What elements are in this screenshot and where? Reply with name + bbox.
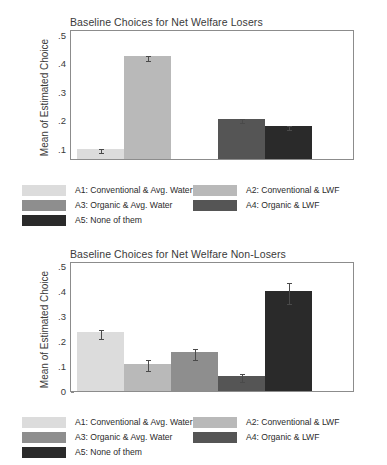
error-cap: [146, 371, 151, 372]
error-cap: [193, 349, 198, 350]
bar-series: [71, 31, 353, 159]
error-cap: [240, 382, 245, 383]
chart-legend: A1: Conventional & Avg. WaterA2: Convent…: [0, 183, 387, 228]
legend-item-a5[interactable]: A5: None of them: [22, 213, 142, 228]
legend-row: A1: Conventional & Avg. WaterA2: Convent…: [0, 183, 387, 198]
chart-title: Baseline Choices for Net Welfare Losers: [70, 16, 370, 28]
legend-label-a4: A4: Organic & LWF: [246, 200, 319, 211]
bar-a5: [265, 291, 312, 391]
y-tick-label: .5: [44, 30, 70, 42]
legend-label-a3: A3: Organic & Avg. Water: [75, 432, 172, 443]
legend-label-a5: A5: None of them: [75, 215, 142, 226]
legend-label-a4: A4: Organic & LWF: [246, 432, 319, 443]
y-tick-label: 0: [44, 386, 70, 398]
legend-label-a2: A2: Conventional & LWF: [246, 185, 339, 196]
y-axis-ticks: .1.2.3.4.5: [44, 30, 70, 160]
legend-swatch-a5: [22, 447, 66, 458]
chart-panel-losers: Baseline Choices for Net Welfare Losers …: [0, 0, 387, 232]
y-tick-label: .1: [44, 144, 70, 156]
legend-row: A1: Conventional & Avg. WaterA2: Convent…: [0, 415, 387, 430]
error-cap: [99, 339, 104, 340]
error-bar-a5: [289, 283, 290, 304]
bar-a1: [77, 332, 124, 391]
legend-swatch-a1: [22, 417, 66, 428]
error-cap: [240, 374, 245, 375]
legend-label-a2: A2: Conventional & LWF: [246, 417, 339, 428]
legend-row: A3: Organic & Avg. WaterA4: Organic & LW…: [0, 198, 387, 213]
legend-item-a1[interactable]: A1: Conventional & Avg. Water: [22, 183, 193, 198]
error-cap: [99, 149, 104, 150]
y-tick-label: .4: [44, 286, 70, 298]
y-tick-label: .1: [44, 361, 70, 373]
legend-swatch-a3: [22, 200, 66, 211]
legend-label-a5: A5: None of them: [75, 447, 142, 458]
y-axis-ticks: 0.1.2.3.4.5: [44, 262, 70, 392]
error-cap: [287, 304, 292, 305]
legend-row: A5: None of them: [0, 213, 387, 228]
chart-legend: A1: Conventional & Avg. WaterA2: Convent…: [0, 415, 387, 460]
error-bar-a4: [242, 374, 243, 382]
chart-title: Baseline Choices for Net Welfare Non-Los…: [70, 248, 370, 260]
legend-item-a3[interactable]: A3: Organic & Avg. Water: [22, 430, 172, 445]
legend-item-a3[interactable]: A3: Organic & Avg. Water: [22, 198, 172, 213]
legend-swatch-a5: [22, 215, 66, 226]
error-cap: [287, 130, 292, 131]
legend-item-a5[interactable]: A5: None of them: [22, 445, 142, 460]
legend-item-a2[interactable]: A2: Conventional & LWF: [193, 183, 339, 198]
legend-swatch-a2: [193, 417, 237, 428]
y-tick-label: .3: [44, 87, 70, 99]
bar-a4: [218, 119, 265, 159]
error-bar-a2: [148, 360, 149, 371]
y-tick-label: .5: [44, 261, 70, 273]
error-cap: [146, 360, 151, 361]
error-cap: [240, 119, 245, 120]
legend-swatch-a2: [193, 185, 237, 196]
error-cap: [193, 360, 198, 361]
y-tick-label: .3: [44, 311, 70, 323]
error-cap: [99, 330, 104, 331]
error-cap: [287, 126, 292, 127]
chart-non-losers: Baseline Choices for Net Welfare Non-Los…: [0, 232, 387, 407]
legend-label-a1: A1: Conventional & Avg. Water: [75, 417, 193, 428]
y-tick-label: .2: [44, 115, 70, 127]
legend-item-a4[interactable]: A4: Organic & LWF: [193, 198, 319, 213]
legend-label-a1: A1: Conventional & Avg. Water: [75, 185, 193, 196]
legend-item-a2[interactable]: A2: Conventional & LWF: [193, 415, 339, 430]
legend-swatch-a1: [22, 185, 66, 196]
error-bar-a3: [195, 349, 196, 360]
error-cap: [287, 283, 292, 284]
error-cap: [146, 61, 151, 62]
legend-swatch-a4: [193, 200, 237, 211]
legend-row: A3: Organic & Avg. WaterA4: Organic & LW…: [0, 430, 387, 445]
legend-label-a3: A3: Organic & Avg. Water: [75, 200, 172, 211]
bar-series: [71, 263, 353, 391]
plot-area: [70, 30, 354, 160]
legend-swatch-a3: [22, 432, 66, 443]
legend-item-a1[interactable]: A1: Conventional & Avg. Water: [22, 415, 193, 430]
error-cap: [240, 123, 245, 124]
y-tick-mark: [71, 392, 74, 393]
chart-panel-non-losers: Baseline Choices for Net Welfare Non-Los…: [0, 232, 387, 465]
y-tick-label: .2: [44, 336, 70, 348]
error-bar-a1: [101, 330, 102, 339]
bar-a2: [124, 56, 171, 159]
legend-swatch-a4: [193, 432, 237, 443]
legend-row: A5: None of them: [0, 445, 387, 460]
y-tick-label: .4: [44, 58, 70, 70]
error-cap: [146, 56, 151, 57]
plot-area: [70, 262, 354, 392]
chart-losers: Baseline Choices for Net Welfare Losers …: [0, 0, 387, 175]
legend-item-a4[interactable]: A4: Organic & LWF: [193, 430, 319, 445]
error-cap: [99, 153, 104, 154]
